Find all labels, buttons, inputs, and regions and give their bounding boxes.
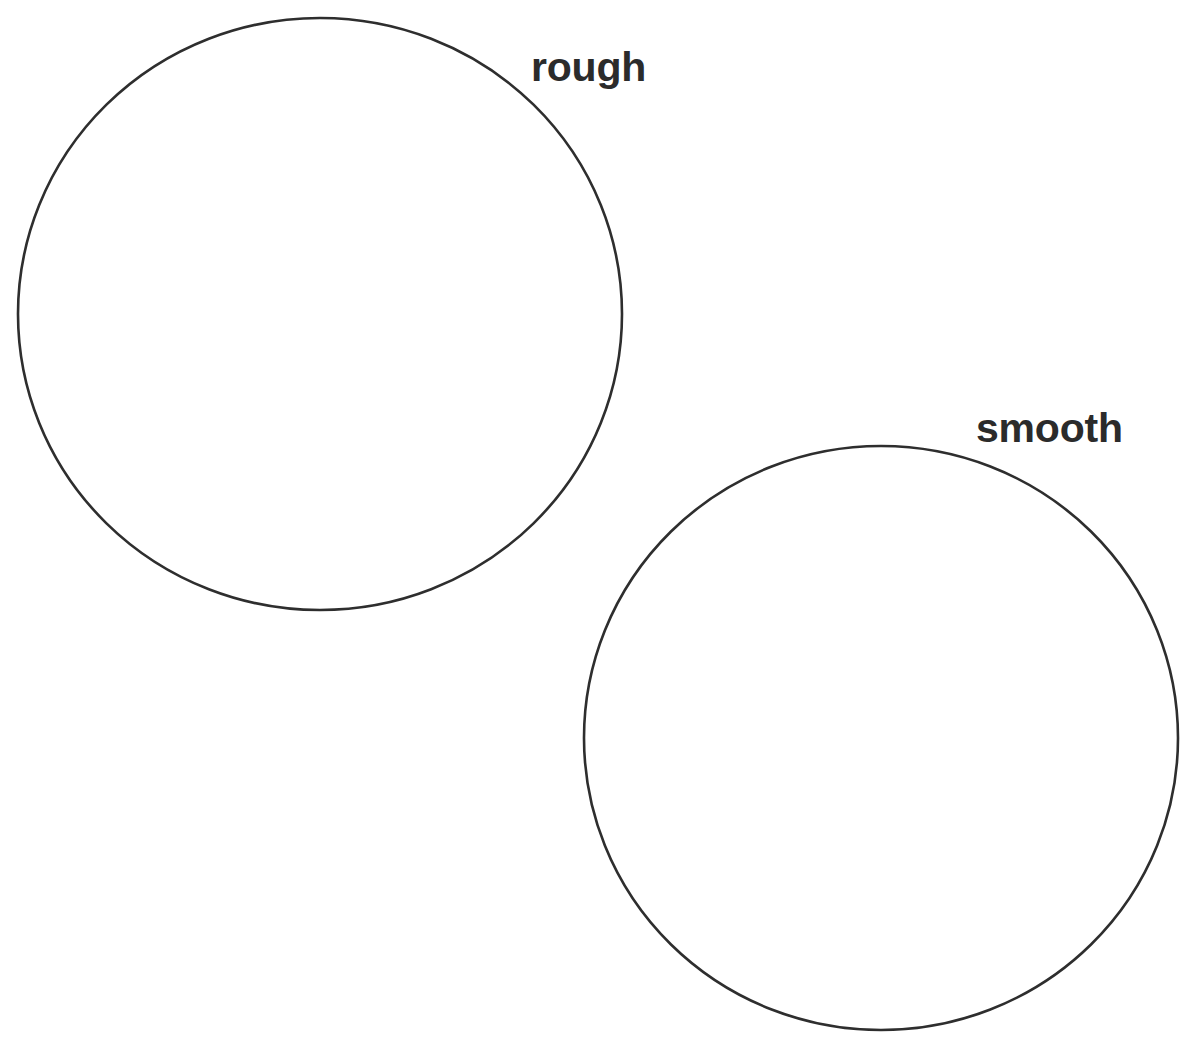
circle-rough-label: rough: [531, 47, 646, 88]
circle-rough: [18, 18, 622, 610]
circle-smooth-label: smooth: [976, 408, 1123, 449]
circle-smooth: [584, 446, 1178, 1030]
diagram-canvas: rough smooth: [0, 0, 1196, 1041]
circles-figure: [0, 0, 1196, 1041]
